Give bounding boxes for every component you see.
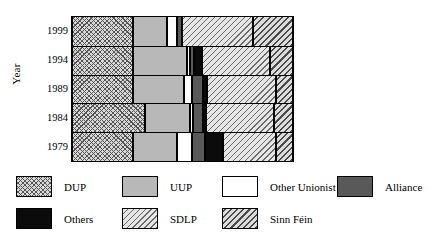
y-tick-1999: 1999 <box>38 26 68 36</box>
chart-legend: DUP UUP Other Unionist Alliance Others S… <box>0 172 430 244</box>
bar-segment-sinn-f-in-1979 <box>276 132 293 161</box>
bar-row-1979 <box>72 132 293 161</box>
y-axis-tick-labels: 1999 1994 1989 1984 1979 <box>38 16 68 162</box>
bar-segment-sinn-f-in-1984 <box>274 103 293 132</box>
legend-item-uup: UUP <box>122 176 192 197</box>
y-tick-1984: 1984 <box>38 113 68 123</box>
legend-label-sdlp: SDLP <box>170 213 197 225</box>
bar-segment-sdlp-1989 <box>207 75 276 104</box>
bar-row-divider <box>72 46 293 47</box>
legend-swatch-sinn-fein-icon <box>222 208 258 229</box>
bar-segment-uup-1994 <box>133 46 187 75</box>
y-tick-1994: 1994 <box>38 55 68 65</box>
legend-swatch-uup-icon <box>122 176 158 197</box>
legend-label-alliance: Alliance <box>385 181 422 193</box>
bar-segment-others-1979 <box>205 132 223 161</box>
legend-swatch-other-unionist-icon <box>222 176 258 197</box>
bar-segment-dup-1999 <box>72 17 133 46</box>
legend-item-sinn-fein: Sinn Féin <box>222 208 312 229</box>
bar-segment-other-unionist-1989 <box>184 75 192 104</box>
bar-row-divider <box>72 75 293 76</box>
bar-row-1984 <box>72 103 293 132</box>
legend-item-alliance: Alliance <box>337 176 422 197</box>
bar-segment-others-1994 <box>194 46 202 75</box>
bar-segment-alliance-1979 <box>192 132 205 161</box>
bar-row-divider <box>72 132 293 133</box>
legend-swatch-others-icon <box>16 208 52 229</box>
bar-segment-sdlp-1984 <box>206 103 275 132</box>
plot-area <box>71 16 294 162</box>
bar-row-1989 <box>72 75 293 104</box>
legend-label-others: Others <box>64 213 93 225</box>
bar-row-1994 <box>72 46 293 75</box>
bar-segment-uup-1999 <box>133 17 167 46</box>
y-axis-title: Year <box>10 44 22 104</box>
legend-swatch-dup-icon <box>16 176 52 197</box>
bar-segment-dup-1994 <box>72 46 133 75</box>
bar-segment-sdlp-1979 <box>223 132 276 161</box>
bar-segment-dup-1979 <box>72 132 133 161</box>
legend-item-sdlp: SDLP <box>122 208 197 229</box>
bar-segment-sdlp-1999 <box>182 17 253 46</box>
bar-segment-sinn-f-in-1999 <box>253 17 293 46</box>
bar-segment-sdlp-1994 <box>202 46 269 75</box>
legend-label-sinn-fein: Sinn Féin <box>270 213 312 225</box>
stacked-bar-chart: Year 1999 1994 1989 1984 1979 <box>0 0 430 170</box>
bar-segment-uup-1989 <box>133 75 184 104</box>
bar-segment-uup-1979 <box>133 132 178 161</box>
bar-segment-sinn-f-in-1994 <box>270 46 293 75</box>
bar-segment-alliance-1984 <box>193 103 203 132</box>
bar-segment-dup-1984 <box>72 103 145 132</box>
legend-label-dup: DUP <box>64 181 86 193</box>
bar-segment-dup-1989 <box>72 75 133 104</box>
bar-segment-alliance-1989 <box>192 75 203 104</box>
legend-label-uup: UUP <box>170 181 192 193</box>
legend-item-other-unionist: Other Unionist <box>222 176 336 197</box>
bar-row-1999 <box>72 17 293 46</box>
legend-item-dup: DUP <box>16 176 86 197</box>
y-tick-1989: 1989 <box>38 84 68 94</box>
y-tick-1979: 1979 <box>38 142 68 152</box>
bar-segment-other-unionist-1979 <box>177 132 192 161</box>
legend-label-other-unionist: Other Unionist <box>270 181 336 193</box>
bar-segment-sinn-f-in-1989 <box>276 75 293 104</box>
bar-segment-other-unionist-1999 <box>167 17 177 46</box>
bar-row-divider <box>72 103 293 104</box>
bar-segment-uup-1984 <box>145 103 190 132</box>
legend-item-others: Others <box>16 208 93 229</box>
legend-swatch-sdlp-icon <box>122 208 158 229</box>
legend-swatch-alliance-icon <box>337 176 373 197</box>
